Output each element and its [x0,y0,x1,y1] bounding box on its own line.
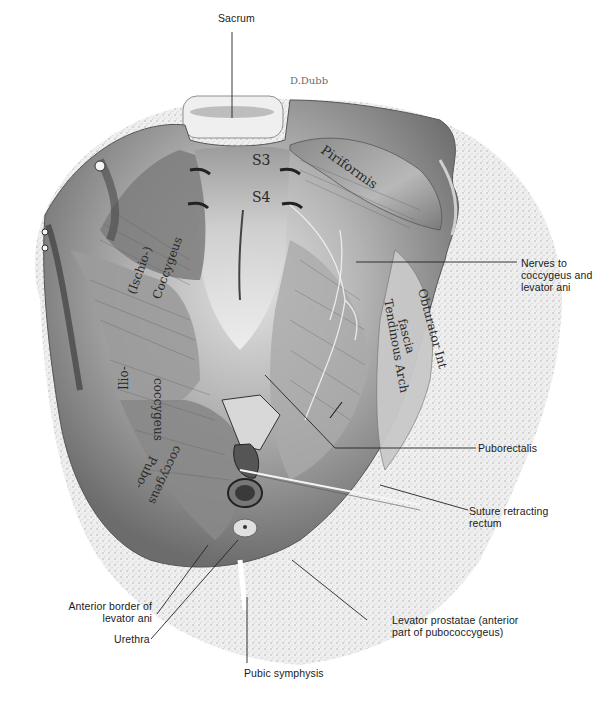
callout-urethra: Urethra [114,633,150,645]
callout-nerves-line2: coccygeus and [521,269,592,281]
label-iliococcygeus: coccygeus [151,378,165,441]
callout-levator-prostatae: Levator prostatae (anterior part of pubo… [392,614,518,638]
callout-levator-prostatae-line2: part of pubococcygeus) [392,626,518,638]
callout-anterior-line2: levator ani [54,612,152,624]
callout-anterior-border: Anterior border of levator ani [54,600,152,624]
callout-suture: Suture retracting rectum [469,505,548,529]
artist-signature: D.Dubb [290,75,328,86]
callout-suture-line2: rectum [469,517,548,529]
callout-sacrum: Sacrum [218,12,255,24]
callout-levator-prostatae-line1: Levator prostatae (anterior [392,614,518,626]
callout-anterior-line1: Anterior border of [54,600,152,612]
callout-puborectalis: Puborectalis [478,442,537,454]
callout-nerves-line3: levator ani [521,281,592,293]
vessel-cross-section [95,161,105,171]
callout-nerves: Nerves to coccygeus and levator ani [521,257,592,293]
callout-nerves-line1: Nerves to [521,257,592,269]
callout-suture-line1: Suture retracting [469,505,548,517]
callout-pubic-symphysis: Pubic symphysis [244,667,324,679]
label-s3: S3 [252,152,271,168]
label-s4: S4 [252,189,271,205]
label-ilio: Ilio- [117,366,131,390]
